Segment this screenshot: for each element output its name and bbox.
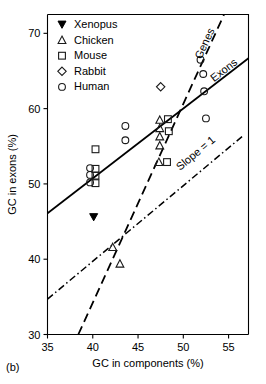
genes-line-label: Genes — [192, 26, 217, 61]
legend-label-human: Human — [74, 80, 109, 92]
x-tick-label: 45 — [132, 341, 144, 353]
legend-marker-xenopus — [58, 21, 66, 28]
x-tick-label: 35 — [41, 341, 53, 353]
fit-line-slope-1 — [48, 136, 244, 299]
data-point-mouse — [92, 146, 99, 153]
data-point-chicken — [109, 243, 117, 250]
figure-panel: 30405060703540455055GC in components (%)… — [0, 0, 266, 384]
legend-label-mouse: Mouse — [74, 49, 107, 61]
data-point-chicken — [116, 260, 124, 267]
slope-one-label: Slope = 1 — [174, 133, 218, 172]
x-axis-title: GC in components (%) — [92, 357, 203, 369]
data-point-human — [200, 71, 207, 78]
y-tick-label: 30 — [28, 329, 40, 341]
gc-scatter-plot: 30405060703540455055GC in components (%)… — [0, 0, 266, 384]
x-tick-label: 55 — [222, 341, 234, 353]
data-point-human — [122, 137, 129, 144]
y-tick-label: 70 — [28, 27, 40, 39]
legend-label-rabbit: Rabbit — [74, 65, 106, 77]
data-point-chicken — [156, 116, 164, 123]
y-axis-title: GC in exons (%) — [6, 134, 18, 215]
data-point-mouse — [164, 159, 171, 166]
data-point-chicken — [156, 142, 164, 149]
plot-axes — [48, 15, 249, 335]
data-point-human — [203, 115, 210, 122]
y-tick-label: 60 — [28, 103, 40, 115]
x-tick-label: 40 — [87, 341, 99, 353]
legend-label-xenopus: Xenopus — [74, 18, 118, 30]
y-tick-label: 40 — [28, 253, 40, 265]
x-tick-label: 50 — [177, 341, 189, 353]
data-point-xenopus — [90, 214, 98, 221]
plot-frame — [48, 15, 249, 335]
data-point-chicken — [156, 132, 164, 139]
legend-marker-human — [59, 84, 66, 91]
legend-marker-chicken — [58, 36, 66, 43]
legend-marker-rabbit — [58, 67, 66, 75]
legend-label-chicken: Chicken — [74, 34, 114, 46]
data-point-human — [122, 123, 129, 130]
legend-marker-mouse — [59, 52, 66, 59]
y-tick-label: 50 — [28, 178, 40, 190]
data-point-rabbit — [156, 83, 164, 91]
